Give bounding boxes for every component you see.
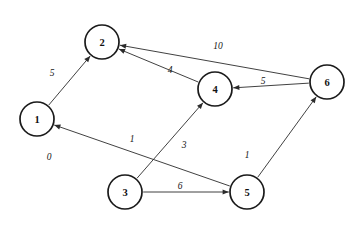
edge-6-to-4 <box>233 83 309 90</box>
node-label: 2 <box>99 37 104 48</box>
edge-line <box>54 125 230 186</box>
arrowhead-icon <box>120 44 127 49</box>
loose-labels-layer: 0 <box>47 152 52 162</box>
edge-5-to-6 <box>258 97 317 178</box>
loose-label: 0 <box>47 152 52 162</box>
graph-svg: 123456 510451316 0 <box>0 0 360 225</box>
edge-weight-label: 5 <box>261 76 266 86</box>
edge-line <box>49 56 91 105</box>
edge-weight-label: 1 <box>245 150 250 160</box>
node-label: 6 <box>324 77 329 88</box>
arrowhead-icon <box>54 125 61 130</box>
edge-weight-label: 10 <box>213 41 223 51</box>
node-label: 3 <box>122 187 127 198</box>
node-1[interactable]: 1 <box>20 102 54 136</box>
edge-weight-label: 3 <box>181 140 187 150</box>
node-2[interactable]: 2 <box>85 25 119 59</box>
arrowhead-icon <box>223 189 229 194</box>
node-label: 4 <box>212 84 218 95</box>
graph-diagram-canvas: 123456 510451316 0 <box>0 0 360 225</box>
edge-5-to-1 <box>54 125 230 186</box>
arrowhead-icon <box>311 97 317 104</box>
edges-layer <box>49 44 317 195</box>
arrowhead-icon <box>233 85 239 90</box>
edge-4-to-2 <box>119 49 198 82</box>
edge-weight-label: 4 <box>168 65 173 75</box>
node-label: 5 <box>244 187 249 198</box>
edge-line <box>119 49 198 82</box>
edge-line <box>233 83 309 88</box>
edge-weight-label: 5 <box>50 68 55 78</box>
edge-1-to-2 <box>49 56 91 105</box>
node-6[interactable]: 6 <box>310 65 344 99</box>
node-4[interactable]: 4 <box>198 72 232 106</box>
edge-3-to-5 <box>143 189 229 194</box>
edge-weight-label: 1 <box>130 134 135 144</box>
edge-line <box>258 97 317 178</box>
node-3[interactable]: 3 <box>108 175 142 209</box>
edge-3-to-4 <box>137 103 203 179</box>
node-5[interactable]: 5 <box>230 175 264 209</box>
edge-weight-label: 6 <box>178 181 183 191</box>
node-label: 1 <box>34 114 39 125</box>
edge-line <box>137 103 203 179</box>
edge-weight-labels-layer: 510451316 <box>50 41 266 191</box>
arrowhead-icon <box>119 49 126 54</box>
